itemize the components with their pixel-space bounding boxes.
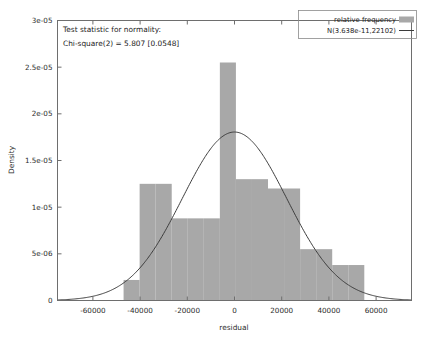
histogram-bar [140,184,156,301]
x-tick-label: 20000 [270,306,293,315]
histogram-bar [124,280,140,301]
x-tick-label: -20000 [175,306,201,315]
chart-container: -60000-40000-200000200004000060000 05e-0… [0,0,427,341]
x-tick-label: -40000 [127,306,153,315]
y-tick-label: 2e-05 [32,109,53,118]
annotation-line-1: Test statistic for normality: [62,25,161,34]
y-tick-label: 0 [48,296,53,305]
legend-item-normal-label: N(3.638e-11,22102) [327,27,396,35]
x-tick-label: 0 [232,306,237,315]
histogram-bar [268,189,284,301]
histogram-bar [220,63,236,301]
y-tick-label: 2.5e-05 [25,63,53,72]
histogram-bar [188,218,204,300]
histogram-bar [204,218,220,300]
annotation-line-2: Chi-square(2) = 5.807 [0.0548] [63,39,179,48]
legend-item-relative-frequency-label: relative frequency [334,16,396,24]
histogram-bar [316,249,332,300]
histogram-bar [348,265,364,300]
x-tick-label: 40000 [317,306,340,315]
y-axis-title: Density [7,145,16,174]
histogram-bar [252,179,268,300]
legend-swatch-relative-frequency [399,17,414,23]
histogram-bar [284,189,300,301]
y-tick-label: 1.5e-05 [25,156,53,165]
y-tick-label: 3e-05 [32,16,53,25]
y-tick-label: 1e-05 [32,203,53,212]
histogram-bar [300,249,316,300]
x-tick-label: -60000 [80,306,106,315]
x-axis-title: residual [219,323,248,332]
histogram-bar [236,179,252,300]
histogram-bar [172,218,188,300]
x-tick-label: 60000 [365,306,388,315]
residual-histogram-chart: -60000-40000-200000200004000060000 05e-0… [0,0,427,341]
y-tick-label: 5e-06 [32,249,53,258]
